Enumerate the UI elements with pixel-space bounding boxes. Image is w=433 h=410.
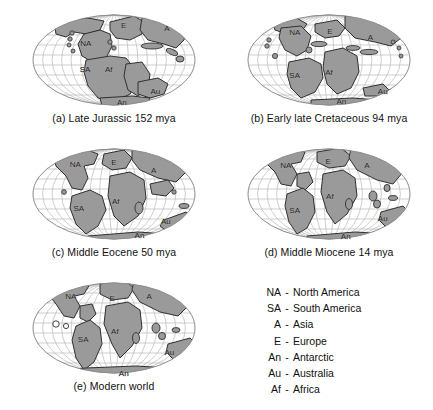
- caption-c: (c) Middle Eocene 50 mya: [26, 246, 202, 258]
- region-label-SA: SA: [289, 71, 300, 80]
- map-svg-b: NAEASAAfAnAu: [241, 12, 417, 112]
- region-label-SA: SA: [73, 204, 84, 213]
- caption-b: (b) Early late Cretaceous 94 mya: [241, 112, 417, 124]
- region-label-Au: Au: [165, 348, 175, 357]
- region-label-Au: Au: [378, 214, 388, 223]
- landmasses-e: [40, 280, 198, 377]
- map-a: NAEASAAfAnAu: [26, 12, 202, 112]
- region-label-Af: Af: [105, 65, 113, 74]
- caption-e: (e) Modern world: [26, 380, 202, 392]
- region-label-NA: NA: [70, 160, 82, 169]
- panel-b: NAEASAAfAnAu (b) Early late Cretaceous 9…: [241, 12, 417, 124]
- map-c: NAEASAAfAnAu: [26, 146, 202, 246]
- legend-dash: -: [281, 383, 293, 395]
- legend-item: SA-South America: [255, 302, 361, 318]
- region-label-NA: NA: [289, 28, 301, 37]
- region-label-A: A: [164, 24, 170, 33]
- region-label-Au: Au: [378, 87, 388, 96]
- legend-continent-name: Australia: [293, 367, 334, 379]
- legend-continent-name: Europe: [293, 335, 327, 347]
- map-svg-c: NAEASAAfAnAu: [26, 146, 202, 246]
- legend-continent-name: Africa: [293, 383, 320, 395]
- region-label-A: A: [364, 161, 370, 170]
- legend-dash: -: [281, 286, 293, 298]
- legend-item: E-Europe: [255, 335, 361, 351]
- map-b: NAEASAAfAnAu: [241, 12, 417, 112]
- legend-dash: -: [281, 351, 293, 363]
- legend-continent-name: Antarctic: [293, 351, 334, 363]
- panel-c: NAEASAAfAnAu (c) Middle Eocene 50 mya: [26, 146, 202, 258]
- caption-a: (a) Late Jurassic 152 mya: [26, 112, 202, 124]
- region-label-Au: Au: [161, 217, 171, 226]
- legend-abbreviation: E: [255, 335, 281, 347]
- region-label-Af: Af: [326, 192, 334, 201]
- legend-dash: -: [281, 367, 293, 379]
- region-label-SA: SA: [78, 335, 89, 344]
- region-label-NA: NA: [80, 39, 92, 48]
- region-label-An: An: [336, 97, 346, 106]
- region-label-E: E: [325, 157, 330, 166]
- region-label-E: E: [327, 27, 332, 36]
- legend-item: A-Asia: [255, 318, 361, 334]
- legend-continent-name: Asia: [293, 318, 313, 330]
- legend-abbreviation: NA: [255, 286, 281, 298]
- region-label-NA: NA: [280, 161, 292, 170]
- panel-a: NAEASAAfAnAu (a) Late Jurassic 152 mya: [26, 12, 202, 124]
- legend-abbreviation: A: [255, 318, 281, 330]
- region-label-Af: Af: [325, 68, 333, 77]
- legend-abbreviation: An: [255, 351, 281, 363]
- legend-continent-name: South America: [293, 302, 361, 314]
- legend-item: NA-North America: [255, 286, 361, 302]
- legend-abbreviation: SA: [255, 302, 281, 314]
- caption-d: (d) Middle Miocene 14 mya: [241, 246, 417, 258]
- region-label-SA: SA: [289, 206, 300, 215]
- map-svg-d: NAEASAAfAnAu: [241, 146, 417, 246]
- legend-dash: -: [281, 318, 293, 330]
- region-label-A: A: [368, 33, 374, 42]
- region-label-An: An: [341, 232, 351, 241]
- legend-dash: -: [281, 335, 293, 347]
- map-svg-e: NAEASAAfAnAu: [26, 280, 202, 380]
- abbreviation-legend: NA-North AmericaSA-South AmericaA-AsiaE-…: [255, 286, 361, 399]
- legend-abbreviation: Af: [255, 383, 281, 395]
- paleogeography-figure: NAEASAAfAnAu (a) Late Jurassic 152 mya: [0, 0, 433, 410]
- region-label-An: An: [119, 369, 129, 378]
- region-label-E: E: [110, 294, 115, 303]
- legend-continent-name: North America: [293, 286, 360, 298]
- legend-item: Au-Australia: [255, 367, 361, 383]
- region-label-An: An: [117, 98, 127, 107]
- map-svg-a: NAEASAAfAnAu: [26, 12, 202, 112]
- legend-dash: -: [281, 302, 293, 314]
- legend-item: An-Antarctic: [255, 351, 361, 367]
- map-d: NAEASAAfAnAu: [241, 146, 417, 246]
- legend-abbreviation: Au: [255, 367, 281, 379]
- legend-rows: NA-North AmericaSA-South AmericaA-AsiaE-…: [255, 286, 361, 399]
- region-label-Au: Au: [151, 87, 161, 96]
- region-label-E: E: [121, 21, 126, 30]
- legend-item: Af-Africa: [255, 383, 361, 399]
- region-label-Af: Af: [112, 197, 120, 206]
- region-label-SA: SA: [80, 65, 91, 74]
- panel-e: NAEASAAfAnAu (e) Modern world: [26, 280, 202, 392]
- region-label-Af: Af: [111, 327, 119, 336]
- map-e: NAEASAAfAnAu: [26, 280, 202, 380]
- region-label-NA: NA: [65, 292, 77, 301]
- region-label-An: An: [135, 231, 145, 240]
- panel-d: NAEASAAfAnAu (d) Middle Miocene 14 mya: [241, 146, 417, 258]
- region-label-A: A: [147, 292, 153, 301]
- region-label-E: E: [111, 158, 116, 167]
- region-label-A: A: [151, 166, 157, 175]
